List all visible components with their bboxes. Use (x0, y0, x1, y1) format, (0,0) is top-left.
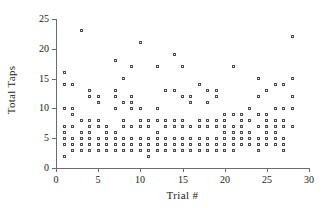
data-point (156, 149, 159, 152)
data-point (257, 143, 260, 146)
data-point (88, 125, 91, 128)
data-point (88, 137, 91, 140)
data-point (223, 137, 226, 140)
data-point (130, 125, 133, 128)
data-point (88, 143, 91, 146)
data-point (215, 125, 218, 128)
data-point (274, 119, 277, 122)
data-point (282, 137, 285, 140)
data-point (114, 59, 117, 62)
data-point (215, 143, 218, 146)
data-point (130, 95, 133, 98)
data-point (198, 83, 201, 86)
data-point (147, 137, 150, 140)
y-axis-tick-label: 0 (28, 163, 49, 173)
data-point (173, 119, 176, 122)
data-point (97, 119, 100, 122)
data-point (181, 149, 184, 152)
data-point (240, 143, 243, 146)
data-point (198, 137, 201, 140)
data-point (173, 89, 176, 92)
y-axis-tick (52, 49, 56, 50)
y-axis-tick (52, 79, 56, 80)
data-point (173, 137, 176, 140)
data-point (181, 65, 184, 68)
data-point (274, 125, 277, 128)
data-point (164, 89, 167, 92)
data-point (164, 137, 167, 140)
data-point (189, 125, 192, 128)
data-point (88, 149, 91, 152)
data-point (198, 149, 201, 152)
data-point (173, 125, 176, 128)
data-point (63, 83, 66, 86)
data-point (282, 143, 285, 146)
data-point (265, 137, 268, 140)
data-point (232, 65, 235, 68)
data-point (257, 125, 260, 128)
data-point (274, 137, 277, 140)
data-point (223, 125, 226, 128)
data-point (189, 101, 192, 104)
data-point (88, 89, 91, 92)
data-point (130, 101, 133, 104)
data-point (164, 119, 167, 122)
y-axis-tick (52, 19, 56, 20)
data-point (282, 119, 285, 122)
data-point (248, 107, 251, 110)
data-point (122, 149, 125, 152)
data-point (265, 89, 268, 92)
data-point (240, 113, 243, 116)
x-axis-tick-label: 15 (170, 174, 196, 185)
data-point (291, 107, 294, 110)
data-point (122, 119, 125, 122)
data-point (223, 113, 226, 116)
x-axis-tick (309, 168, 310, 172)
data-point (274, 107, 277, 110)
data-point (71, 149, 74, 152)
data-point (215, 95, 218, 98)
plot-area: 0510152025 051015202530 Trial # Total Ta… (0, 0, 328, 208)
data-point (265, 125, 268, 128)
data-point (105, 149, 108, 152)
data-point (248, 131, 251, 134)
data-point (223, 149, 226, 152)
data-point (130, 149, 133, 152)
data-point (122, 77, 125, 80)
data-point (97, 95, 100, 98)
data-point (147, 125, 150, 128)
y-axis-title: Total Taps (5, 45, 17, 135)
data-point (97, 143, 100, 146)
data-point (198, 125, 201, 128)
data-point (291, 35, 294, 38)
data-point (130, 143, 133, 146)
data-point (223, 131, 226, 134)
data-point (198, 143, 201, 146)
data-point (206, 125, 209, 128)
data-point (257, 77, 260, 80)
data-point (173, 53, 176, 56)
data-point (206, 101, 209, 104)
y-axis-tick (52, 108, 56, 109)
data-point (122, 143, 125, 146)
data-point (189, 149, 192, 152)
data-point (139, 119, 142, 122)
data-point (282, 149, 285, 152)
data-point (274, 143, 277, 146)
data-point (139, 107, 142, 110)
data-point (206, 149, 209, 152)
data-point (181, 143, 184, 146)
data-point (71, 83, 74, 86)
data-point (88, 131, 91, 134)
data-point (181, 137, 184, 140)
data-point (240, 137, 243, 140)
data-point (97, 137, 100, 140)
x-axis-tick (183, 168, 184, 172)
data-point (206, 89, 209, 92)
data-point (147, 149, 150, 152)
data-point (88, 119, 91, 122)
data-point (282, 125, 285, 128)
data-point (215, 119, 218, 122)
data-point (232, 125, 235, 128)
data-point (265, 119, 268, 122)
